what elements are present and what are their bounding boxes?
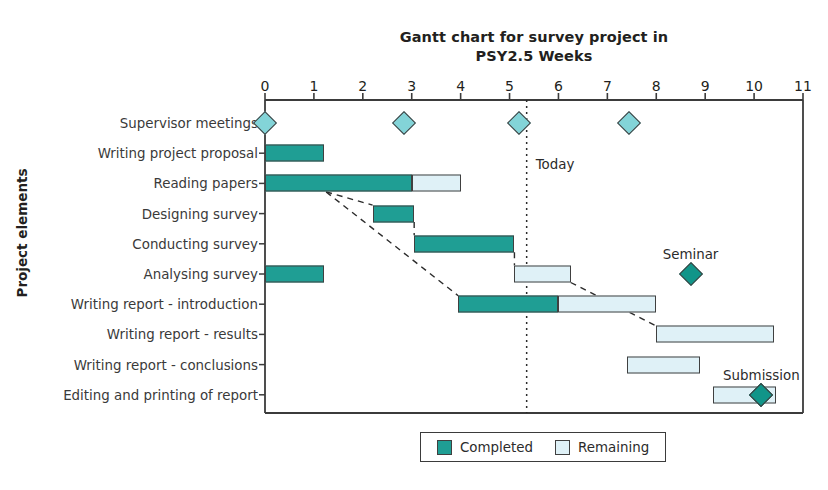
task-bar[interactable] (412, 175, 461, 192)
legend-label: Completed (460, 440, 533, 455)
annotation-label-submission: Submission (723, 367, 800, 382)
gantt-chart: Gantt chart for survey project in PSY2.5… (0, 0, 828, 490)
x-tick-label-6: 6 (543, 78, 573, 94)
annotation-label-today: Today (536, 157, 575, 172)
task-bar[interactable] (265, 266, 324, 283)
legend-swatch-completed (437, 440, 452, 455)
x-tick-label-1: 1 (299, 78, 329, 94)
x-tick-label-4: 4 (446, 78, 476, 94)
row-label-writing-project-proposal: Writing project proposal (8, 146, 258, 161)
row-label-writing-report-results: Writing report - results (8, 327, 258, 342)
y-axis-row-labels: Supervisor meetingsWriting project propo… (0, 0, 258, 490)
x-tick-label-8: 8 (641, 78, 671, 94)
x-tick-label-2: 2 (348, 78, 378, 94)
row-label-designing-survey: Designing survey (8, 206, 258, 221)
legend-swatch-remaining (555, 440, 570, 455)
legend-label: Remaining (578, 440, 649, 455)
task-bar[interactable] (627, 356, 700, 373)
x-tick-label-5: 5 (495, 78, 525, 94)
x-tick-label-9: 9 (690, 78, 720, 94)
legend-item-completed[interactable]: Completed (437, 440, 533, 455)
task-bar[interactable] (656, 326, 773, 343)
task-bar[interactable] (373, 205, 415, 222)
x-tick-label-7: 7 (592, 78, 622, 94)
row-label-writing-report-conclusions: Writing report - conclusions (8, 357, 258, 372)
x-tick-label-3: 3 (397, 78, 427, 94)
row-label-supervisor-meetings: Supervisor meetings (8, 116, 258, 131)
row-label-reading-papers: Reading papers (8, 176, 258, 191)
task-bar[interactable] (458, 296, 558, 313)
task-bar[interactable] (265, 175, 412, 192)
row-label-analysing-survey: Analysing survey (8, 267, 258, 282)
x-tick-label-10: 10 (739, 78, 769, 94)
chart-legend: CompletedRemaining (420, 432, 666, 462)
x-tick-label-11: 11 (788, 78, 818, 94)
task-bar[interactable] (514, 266, 570, 283)
row-label-conducting-survey: Conducting survey (8, 236, 258, 251)
task-bar[interactable] (558, 296, 656, 313)
annotation-label-seminar: Seminar (663, 247, 719, 262)
task-bar[interactable] (265, 145, 324, 162)
row-label-editing-and-printing-of-report: Editing and printing of report (8, 387, 258, 402)
row-label-writing-report-introduction: Writing report - introduction (8, 297, 258, 312)
task-bar[interactable] (414, 235, 514, 252)
legend-item-remaining[interactable]: Remaining (555, 440, 649, 455)
